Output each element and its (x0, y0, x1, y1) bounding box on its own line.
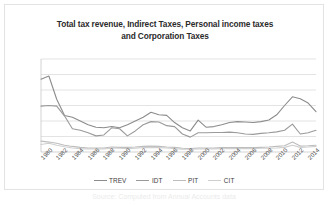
x-axis-tick-label: 2004 (227, 146, 242, 161)
figure-caption: Source: Computed from Annual Accounts da… (0, 193, 328, 206)
legend-label: PIT (188, 177, 198, 184)
x-axis-tick-label: 2008 (259, 146, 274, 161)
x-axis-tick-label: 2012 (290, 146, 305, 161)
x-axis-tick-label: 1982 (54, 146, 69, 161)
chart-legend: TREVIDTPITCIT (0, 174, 328, 186)
x-axis-tick-label: 1986 (86, 146, 101, 161)
legend-swatch-cit-icon (208, 180, 221, 181)
x-axis-tick-label: 1994 (149, 146, 164, 161)
x-axis-tick-label: 2014 (306, 146, 321, 161)
x-axis-tick-label: 2006 (243, 146, 258, 161)
legend-label: TREV (109, 177, 126, 184)
legend-item-cit[interactable]: CIT (208, 177, 234, 184)
legend-swatch-trev-icon (94, 180, 107, 181)
x-axis-tick-label: 1990 (117, 146, 132, 161)
x-axis-tick-label: 1996 (164, 146, 179, 161)
chart-figure: Total tax revenue, Indirect Taxes, Perso… (0, 0, 328, 206)
x-axis-tick-label: 1998 (180, 146, 195, 161)
x-axis-tick-label: 1980 (39, 146, 54, 161)
x-axis-tick-label: 2010 (274, 146, 289, 161)
x-axis-tick-label: 2002 (211, 146, 226, 161)
x-axis-tick-label: 1984 (70, 146, 85, 161)
x-axis-tick-label: 1988 (101, 146, 116, 161)
legend-item-pit[interactable]: PIT (173, 177, 199, 184)
x-axis-tick-label: 1992 (133, 146, 148, 161)
legend-label: CIT (224, 177, 235, 184)
legend-swatch-idt-icon (136, 180, 149, 181)
legend-item-trev[interactable]: TREV (94, 177, 127, 184)
legend-item-idt[interactable]: IDT (136, 177, 162, 184)
legend-swatch-pit-icon (173, 180, 186, 181)
x-axis-tick-label: 2000 (196, 146, 211, 161)
legend-label: IDT (152, 177, 163, 184)
